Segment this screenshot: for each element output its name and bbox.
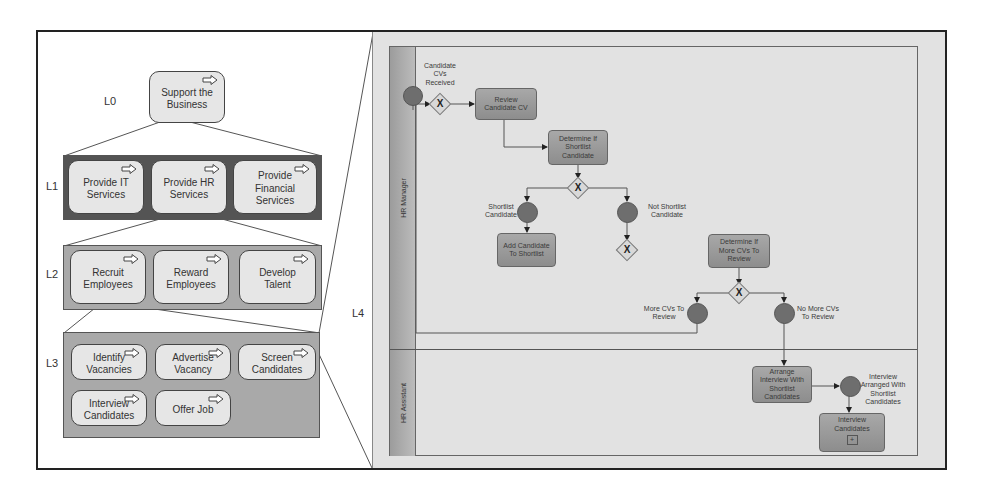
gateway-x-icon: X — [432, 96, 448, 112]
task-label: Interview Candidates — [822, 416, 882, 433]
gateway-x-icon: X — [570, 180, 586, 196]
event-label: No More CVs To Review — [793, 305, 843, 322]
task-determine-if-shortlist[interactable]: Determine If Shortlist Candidate — [548, 130, 608, 165]
task-arrange-interview[interactable]: Arrange Interview With Shortlist Candida… — [752, 366, 812, 403]
gateway-x-icon: X — [619, 242, 635, 258]
event-label: Interview Arranged With Shortlist Candid… — [858, 373, 908, 407]
subprocess-expand-icon[interactable]: + — [847, 435, 858, 445]
event-not-shortlist-candidate[interactable] — [617, 202, 638, 223]
event-label: Not Shortlist Candidate — [642, 203, 692, 220]
event-label: Candidate CVs Received — [418, 62, 462, 87]
subprocess-interview-candidates[interactable]: Interview Candidates + — [819, 413, 885, 452]
task-determine-if-more-cvs[interactable]: Determine If More CVs To Review — [708, 234, 770, 268]
event-label: More CVs To Review — [637, 305, 691, 322]
start-event-candidate-cvs-received[interactable] — [403, 86, 423, 106]
gateway-x-icon: X — [731, 285, 747, 301]
event-label: Shortlist Candidate — [478, 203, 524, 220]
event-no-more-cvs-to-review[interactable] — [774, 303, 795, 324]
task-review-candidate-cv[interactable]: Review Candidate CV — [475, 88, 537, 120]
task-add-candidate-to-shortlist[interactable]: Add Candidate To Shortlist — [497, 233, 556, 267]
